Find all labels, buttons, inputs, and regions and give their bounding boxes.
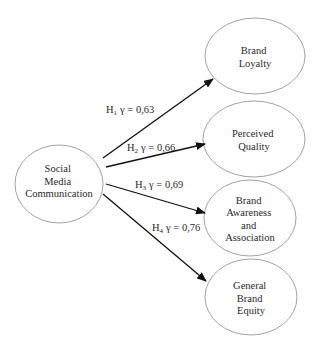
node-social-media-communication: Social Media Communication (15, 145, 103, 223)
edge-label-h1: H1γ = 0,63 (106, 104, 154, 117)
node-label-line: Perceived (232, 128, 274, 139)
node-label-line: Association (225, 232, 275, 243)
node-label-line: Brand (237, 293, 263, 304)
node-label-line: Brand (241, 45, 267, 56)
node-label-line: Social (45, 163, 71, 174)
node-label-line: Quality (238, 141, 270, 152)
gamma-coefficient: γ = 0,66 (140, 142, 175, 153)
hypothesis-subscript: 1 (114, 109, 118, 117)
svg-text:Brand Loyalty: Brand Loyalty (239, 45, 272, 69)
node-label-line: Awareness (226, 207, 271, 218)
arrow-h4 (103, 194, 206, 281)
hypothesis-subscript: 4 (160, 227, 164, 235)
svg-text:Perceived Quality: Perceived Quality (232, 128, 276, 152)
node-label-line: Communication (25, 188, 93, 199)
diagram-svg: Social Media Communication Brand Loyalty… (0, 0, 314, 349)
gamma-coefficient: γ = 0,69 (148, 179, 183, 190)
node-general-brand-equity: General Brand Equity (205, 259, 297, 335)
node-label-line: Media (44, 176, 71, 187)
path-diagram: Social Media Communication Brand Loyalty… (0, 0, 314, 349)
node-label-line: Equity (237, 305, 266, 316)
node-brand-loyalty: Brand Loyalty (205, 18, 305, 94)
hypothesis-subscript: 2 (135, 147, 139, 155)
node-label-line: Brand (236, 195, 262, 206)
svg-text:General Brand: General Brand Equity (233, 280, 269, 316)
node-brand-awareness-association: Brand Awareness and Association (204, 180, 296, 256)
node-perceived-quality: Perceived Quality (203, 101, 305, 177)
edge-label-h3: H3γ = 0,69 (135, 179, 183, 192)
node-label-line: Loyalty (239, 58, 272, 69)
gamma-coefficient: γ = 0,76 (165, 222, 200, 233)
edge-label-h4: H4γ = 0,76 (152, 222, 200, 235)
node-label-line: and (241, 220, 257, 231)
gamma-coefficient: γ = 0,63 (119, 104, 154, 115)
node-label-line: General (233, 280, 266, 291)
edge-label-h2: H2γ = 0,66 (127, 142, 175, 155)
hypothesis-subscript: 3 (143, 184, 147, 192)
